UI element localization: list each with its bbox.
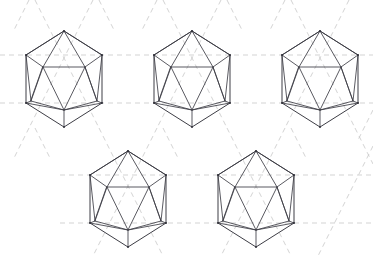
figure-root [0,0,373,268]
icosahedron-lattice-figure [0,0,373,268]
